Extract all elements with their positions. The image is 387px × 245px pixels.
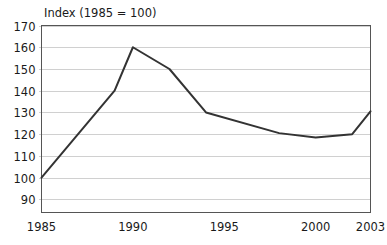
line-chart: 90100110120130140150160170 1985199019952… xyxy=(0,0,387,245)
y-axis-tick-label: 90 xyxy=(21,193,36,207)
chart-container: 90100110120130140150160170 1985199019952… xyxy=(0,0,387,245)
x-axis-tick-label: 1995 xyxy=(210,220,239,234)
y-axis-tick-label: 140 xyxy=(14,85,36,99)
y-axis-tick-label: 100 xyxy=(14,172,36,186)
chart-title: Index (1985 = 100) xyxy=(44,6,156,20)
x-axis-tick-label: 2000 xyxy=(301,220,330,234)
x-axis-tick-labels: 19851990199520002003 xyxy=(27,220,385,234)
y-axis-tick-label: 120 xyxy=(14,128,36,142)
x-axis-tick-label: 1985 xyxy=(27,220,56,234)
y-axis-tick-label: 160 xyxy=(14,41,36,55)
y-axis-tick-label: 150 xyxy=(14,63,36,77)
y-axis-tick-labels: 90100110120130140150160170 xyxy=(14,20,36,207)
x-axis-tick-label: 2003 xyxy=(356,220,385,234)
y-axis-tick-label: 170 xyxy=(14,20,36,34)
y-axis-tick-label: 110 xyxy=(14,150,36,164)
x-axis-tick-label: 1990 xyxy=(118,220,147,234)
y-axis-tick-label: 130 xyxy=(14,106,36,120)
gridlines xyxy=(39,27,371,200)
